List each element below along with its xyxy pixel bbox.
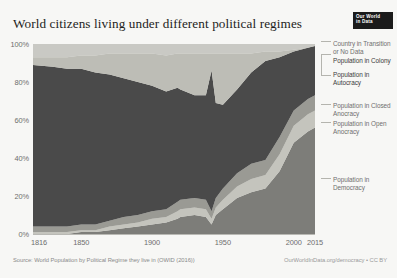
x-axis-line [33, 234, 315, 235]
legend-connector-line [321, 122, 331, 123]
legend-item-label[interactable]: Population in Closed Anocracy [333, 102, 395, 117]
x-axis-tick-label: 1900 [144, 238, 160, 247]
x-axis-tick-label: 2015 [307, 238, 323, 247]
plot-area [33, 44, 315, 234]
x-axis-tick-label: 1850 [73, 238, 89, 247]
x-axis-tick-label: 1816 [31, 238, 47, 247]
legend-item-label[interactable]: Country in Transition or No Data [333, 40, 395, 55]
source-note: Source: World Population by Political Re… [13, 257, 195, 263]
legend-connector-line [321, 178, 331, 179]
stacked-area-series [33, 44, 315, 234]
y-axis-tick-label: 0% [3, 230, 29, 239]
y-axis-tick-label: 20% [3, 192, 29, 201]
legend-bracket [321, 54, 331, 76]
owid-logo: Our World in Data [353, 12, 393, 29]
legend-item-label[interactable]: Population in Autocracy [333, 71, 395, 86]
credit-note: OurWorldInData.org/democracy • CC BY [284, 257, 387, 263]
x-axis-tick-label: 2000 [286, 238, 302, 247]
legend-item-label[interactable]: Population in Open Anocracy [333, 120, 395, 135]
y-axis-tick-label: 100% [3, 40, 29, 49]
owid-logo-line2: in Data [356, 19, 390, 24]
legend-item-label[interactable]: Population in Colony [333, 57, 395, 65]
y-axis-tick-label: 40% [3, 154, 29, 163]
legend-connector-line [321, 104, 331, 105]
x-axis-tick-label: 1950 [215, 238, 231, 247]
chart-canvas: World citizens living under different po… [0, 0, 397, 278]
legend-item-label[interactable]: Population in Democracy [333, 176, 395, 191]
page-title: World citizens living under different po… [13, 16, 302, 32]
y-axis-tick-label: 80% [3, 78, 29, 87]
y-axis-tick-label: 60% [3, 116, 29, 125]
legend-connector-line [321, 41, 331, 42]
